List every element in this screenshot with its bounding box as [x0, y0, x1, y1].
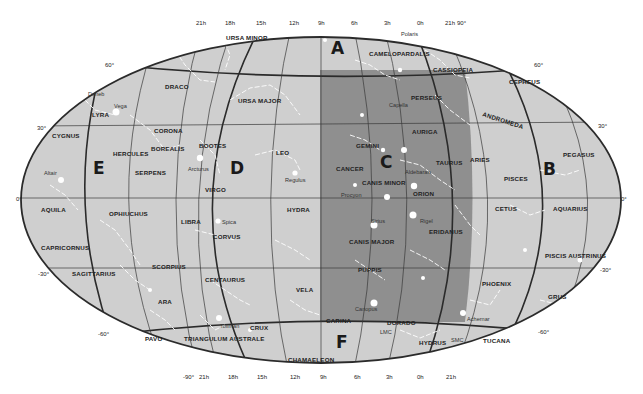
dec-label: 60° [105, 62, 115, 68]
constellation-label: OPHIUCHUS [109, 210, 148, 217]
dec-label-pole: 90° [457, 20, 467, 26]
star-label: Aldebaran [405, 169, 431, 175]
constellation-label: LEO [276, 149, 289, 156]
ra-label: 6h [351, 20, 358, 26]
constellation-label: VIRGO [205, 186, 226, 193]
ra-label: 18h [225, 20, 235, 26]
constellation-label: GEMINI [356, 142, 379, 149]
ra-label: 21h [199, 374, 209, 380]
constellation-label: CHAMAELEON [288, 356, 335, 363]
star-label: Achernar [467, 316, 490, 322]
dec-label-pole: -90° [183, 374, 195, 380]
constellation-label: HYDRUS [419, 339, 446, 346]
constellation-label: TAURUS [436, 159, 463, 166]
star-label: Toliman [220, 323, 239, 329]
dec-label: -30° [600, 267, 612, 273]
ra-label: 15h [257, 374, 267, 380]
dec-label: 30° [598, 123, 608, 129]
star-label: Capella [389, 102, 409, 108]
constellation-label: VELA [296, 286, 314, 293]
constellation-label: PAVO [145, 335, 162, 342]
star-label: SMC [451, 337, 463, 343]
constellation-label: PISCIS AUSTRINUS [545, 252, 606, 259]
constellation-label: SAGITTARIUS [72, 270, 116, 277]
sky-ellipse [20, 15, 625, 385]
constellation-label: GRUS [548, 293, 567, 300]
constellation-label: TRIANGULUM AUSTRALE [184, 335, 265, 342]
ra-label: 21h [445, 20, 455, 26]
constellation-label: CEPHEUS [509, 78, 540, 85]
constellation-label: CASSIOPEIA [433, 66, 473, 73]
constellation-label: SERPENS [135, 169, 166, 176]
region-f-label: F [336, 332, 348, 352]
ra-label: 9h [320, 374, 327, 380]
dec-label: -60° [538, 329, 550, 335]
ra-labels-top: 21h 18h 15h 12h 9h 6h 3h 0h 21h 90° [196, 20, 467, 26]
constellation-label: CORVUS [213, 233, 241, 240]
constellation-label: CORONA [154, 127, 183, 134]
constellation-label: ORION [413, 190, 435, 197]
dec-label: 60° [534, 62, 544, 68]
region-a-label: A [331, 38, 345, 58]
constellation-label: LIBRA [181, 218, 201, 225]
ra-label: 21h [446, 374, 456, 380]
constellation-label: ARA [158, 298, 172, 305]
constellation-label: PISCES [504, 175, 528, 182]
constellation-label: CANIS MINOR [362, 179, 406, 186]
region-d-label: D [230, 158, 244, 178]
dec-label: 0° [621, 196, 627, 202]
ra-label: 0h [417, 374, 424, 380]
constellation-label: ERIDANUS [429, 228, 463, 235]
region-b-label: B [543, 159, 556, 179]
constellation-label: PERSEUS [411, 94, 442, 101]
constellation-label: CETUS [495, 205, 517, 212]
constellation-label: AURIGA [412, 128, 438, 135]
star-label: Spica [222, 219, 237, 225]
ra-label: 15h [256, 20, 266, 26]
constellation-label: PUPPIS [358, 266, 382, 273]
constellation-label: PEGASUS [563, 151, 595, 158]
dec-label: -60° [98, 331, 110, 337]
ra-label: 3h [384, 20, 391, 26]
constellation-label: DRACO [165, 83, 189, 90]
constellation-label: URSA MINOR [226, 34, 268, 41]
constellation-label: AQUARIUS [553, 205, 588, 212]
star-label: Polaris [401, 31, 418, 37]
constellation-label: HYDRA [287, 206, 310, 213]
ra-label: 12h [290, 374, 300, 380]
constellation-label: HERCULES [113, 150, 149, 157]
star-label: Canopus [355, 306, 378, 312]
constellation-label: URSA MAJOR [238, 97, 282, 104]
ra-label: 9h [318, 20, 325, 26]
constellation-label: DORADO [387, 319, 416, 326]
ra-label: 12h [289, 20, 299, 26]
dec-label: -30° [38, 271, 50, 277]
ra-label: 0h [417, 20, 424, 26]
star-label: Arcturus [188, 166, 209, 172]
constellation-label: CANIS MAJOR [349, 238, 395, 245]
star-label: Deneb [88, 91, 104, 97]
dec-label: 0° [16, 196, 22, 202]
sky-map: A B C D E F 21h 18h 15h 12h 9h 6h 3h 0h … [0, 0, 643, 394]
star-label: Rigel [420, 218, 433, 224]
star-label: Sirius [371, 218, 385, 224]
constellation-label: CENTAURUS [205, 276, 245, 283]
constellation-label: CARINA [326, 317, 352, 324]
constellation-label: SCORPIUS [152, 263, 186, 270]
star-label: Vega [114, 103, 128, 109]
ra-label: 3h [386, 374, 393, 380]
constellation-label: AQUILA [41, 206, 66, 213]
constellation-label: CRUX [250, 324, 269, 331]
constellation-label: BOOTES [199, 142, 226, 149]
star-label: Altair [44, 170, 57, 176]
ra-labels-bottom: -90° 21h 18h 15h 12h 9h 6h 3h 0h 21h [183, 374, 456, 380]
ra-label: 18h [228, 374, 238, 380]
star-label: Procyon [341, 192, 362, 198]
constellation-label: LYRA [92, 111, 109, 118]
ra-label: 21h [196, 20, 206, 26]
star-label: LMC [380, 329, 392, 335]
star-label: Regulus [285, 177, 306, 183]
constellation-label: PHOENIX [482, 280, 512, 287]
constellation-label: CANCER [336, 165, 364, 172]
constellation-label: ARIES [470, 156, 490, 163]
